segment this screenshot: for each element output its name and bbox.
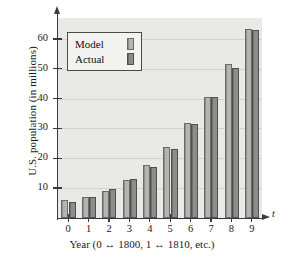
bar-actual-1 (89, 197, 96, 218)
bar-actual-4 (150, 167, 157, 218)
chart-legend: Model Actual (67, 32, 142, 71)
bar-actual-6 (191, 124, 198, 218)
y-axis-tick-label: 40 (18, 92, 48, 103)
legend-swatch-model-icon (127, 38, 134, 50)
y-axis-tick (53, 187, 62, 188)
legend-item-actual: Actual (75, 51, 134, 66)
y-axis-tick (53, 128, 62, 129)
x-axis-tick-label: 2 (100, 223, 118, 234)
y-axis-tick (53, 68, 62, 69)
y-axis-tick-label: 60 (18, 32, 48, 43)
y-axis-tick (53, 158, 62, 159)
legend-item-model: Model (75, 36, 134, 51)
bar-actual-9 (252, 30, 259, 218)
y-axis-tick (53, 98, 62, 99)
axis-variable-label: t (272, 208, 275, 219)
legend-label-model: Model (75, 38, 121, 50)
legend-label-actual: Actual (75, 53, 121, 65)
bar-model-9 (245, 29, 252, 218)
bar-model-5 (163, 147, 170, 218)
x-axis-tick-label: 7 (202, 223, 220, 234)
y-axis-arrow-icon (54, 6, 60, 14)
x-axis-tick-label: 6 (182, 223, 200, 234)
bar-model-6 (184, 123, 191, 218)
y-axis-tick-label: 20 (18, 151, 48, 162)
x-axis-tick-label: 3 (120, 223, 138, 234)
x-axis-tick-label: 4 (141, 223, 159, 234)
y-axis-tick-label: 10 (18, 181, 48, 192)
population-bar-chart: U.S. population (in millions) t 10203040… (0, 0, 284, 263)
x-axis-arrow-icon (262, 214, 270, 220)
bar-model-4 (143, 165, 150, 218)
y-axis-tick (53, 38, 62, 39)
x-axis-tick-label: 0 (59, 223, 77, 234)
x-axis-tick-label: 5 (161, 223, 179, 234)
bar-actual-0 (69, 202, 76, 218)
bar-actual-2 (109, 189, 116, 218)
x-axis-tick-label: 1 (80, 223, 98, 234)
x-axis-tick-label: 9 (243, 223, 261, 234)
bar-actual-8 (232, 68, 239, 218)
x-axis-title: Year (0 ↔ 1800, 1 ↔ 1810, etc.) (0, 238, 284, 250)
x-axis-tick-label: 8 (222, 223, 240, 234)
bar-model-8 (225, 64, 232, 218)
y-axis-tick-label: 30 (18, 121, 48, 132)
bar-actual-5 (171, 149, 178, 218)
bar-actual-7 (211, 97, 218, 218)
y-axis-line (57, 12, 58, 220)
legend-swatch-actual-icon (127, 53, 134, 65)
bar-model-3 (123, 180, 130, 218)
bar-model-1 (82, 197, 89, 218)
bar-actual-3 (130, 179, 137, 218)
bar-model-0 (61, 200, 68, 218)
bar-model-7 (204, 97, 211, 218)
y-axis-tick-label: 50 (18, 62, 48, 73)
bar-model-2 (102, 191, 109, 218)
